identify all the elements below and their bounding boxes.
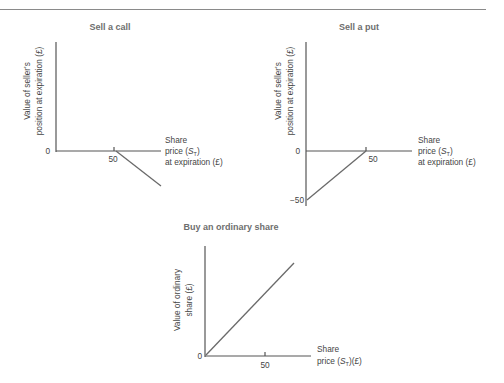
y-axis-label-line2: position at expiration (£) (285, 46, 295, 135)
x-axis-label-line2: price (ST) (165, 146, 200, 157)
y-tick-0: 0 (295, 146, 300, 156)
x-axis-label-line2: price (ST) (418, 146, 453, 157)
y-axis-label-line1: Value of seller's (22, 62, 32, 120)
chart-sell-put: Sell a put Value of seller's position at… (273, 22, 476, 206)
y-tick-0: 0 (197, 351, 202, 361)
y-tick-neg50: −50 (290, 195, 304, 205)
x-axis-label-line2: price (ST)(£) (317, 356, 362, 367)
payoff-diagrams: Sell a call Value of seller's position a… (0, 0, 504, 383)
y-axis-label-line2: position at expiration (£) (34, 46, 44, 135)
y-axis-label-line2: share (£) (184, 283, 194, 316)
value-line (206, 263, 294, 355)
y-tick-0: 0 (45, 146, 50, 156)
x-tick-label-50: 50 (108, 154, 118, 164)
chart-buy-share: Buy an ordinary share Value of ordinary … (172, 222, 362, 370)
chart-title: Buy an ordinary share (183, 222, 278, 232)
x-axis-label-line1: Share (418, 135, 441, 145)
chart-sell-call: Sell a call Value of seller's position a… (22, 22, 223, 186)
x-tick-label-50: 50 (368, 154, 378, 164)
y-axis-label-line1: Value of ordinary (172, 268, 182, 331)
payoff-line (307, 151, 366, 200)
x-tick-label-50: 50 (260, 360, 270, 370)
chart-title: Sell a call (89, 22, 130, 32)
y-axis-label-line1: Value of seller's (273, 62, 283, 120)
payoff-line (116, 151, 161, 186)
chart-title: Sell a put (339, 22, 379, 32)
x-axis-label-line3: at expiration (£) (165, 157, 223, 167)
x-axis-label-line3: at expiration (£) (418, 157, 476, 167)
x-axis-label-line1: Share (165, 135, 188, 145)
x-axis-label-line1: Share (317, 344, 340, 354)
